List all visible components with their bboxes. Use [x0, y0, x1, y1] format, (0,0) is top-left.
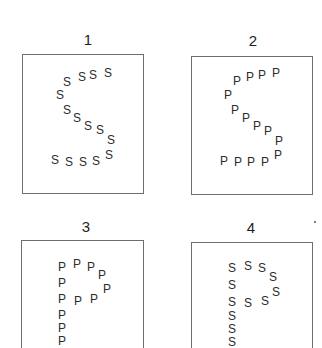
panel-number-label: 1 [73, 32, 103, 47]
local-letter: S [77, 156, 89, 168]
local-letter: P [270, 67, 282, 79]
local-letter: S [226, 296, 238, 308]
local-letter: P [56, 309, 68, 321]
local-letter: S [63, 156, 75, 168]
local-letter: S [102, 67, 114, 79]
local-letter: S [226, 336, 238, 348]
local-letter: P [259, 156, 271, 168]
local-letter: P [244, 71, 256, 83]
local-letter: S [242, 297, 254, 309]
local-letter: S [87, 69, 99, 81]
local-letter: P [231, 75, 243, 87]
local-letter: S [226, 323, 238, 335]
panel-number-label: 3 [71, 219, 101, 234]
local-letter: P [96, 269, 108, 281]
local-letter: P [56, 261, 68, 273]
local-letter: P [273, 135, 285, 147]
local-letter: P [56, 277, 68, 289]
local-letter: P [56, 322, 68, 334]
stimulus-frame [191, 242, 313, 348]
local-letter: P [72, 295, 84, 307]
local-letter: P [272, 149, 284, 161]
panel-number-label: 2 [238, 33, 268, 48]
local-letter: S [226, 279, 238, 291]
local-letter: S [82, 120, 94, 132]
local-letter: S [226, 262, 238, 274]
local-letter: P [232, 156, 244, 168]
local-letter: S [105, 134, 117, 146]
local-letter: S [90, 155, 102, 167]
local-letter: P [71, 258, 83, 270]
local-letter: S [61, 76, 73, 88]
local-letter: S [267, 271, 279, 283]
local-letter: P [56, 293, 68, 305]
stray-dot-mark [314, 221, 316, 223]
local-letter: P [88, 293, 100, 305]
stimulus-frame [21, 240, 144, 348]
panel-number-label: 4 [236, 220, 266, 235]
local-letter: P [222, 89, 234, 101]
local-letter: P [245, 156, 257, 168]
local-letter: S [226, 310, 238, 322]
local-letter: P [56, 335, 68, 347]
local-letter: P [256, 69, 268, 81]
local-letter: S [242, 260, 254, 272]
local-letter: P [101, 283, 113, 295]
local-letter: S [49, 154, 61, 166]
local-letter: S [103, 149, 115, 161]
local-letter: P [218, 155, 230, 167]
local-letter: S [270, 286, 282, 298]
local-letter: S [54, 89, 66, 101]
